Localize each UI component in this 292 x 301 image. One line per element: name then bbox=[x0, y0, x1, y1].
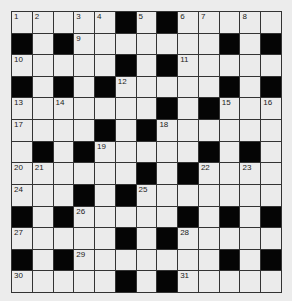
crossword-cell[interactable] bbox=[240, 207, 260, 228]
crossword-cell[interactable] bbox=[220, 163, 240, 184]
crossword-cell[interactable] bbox=[178, 120, 198, 141]
crossword-cell[interactable] bbox=[137, 250, 157, 271]
crossword-cell[interactable] bbox=[137, 271, 157, 292]
crossword-cell[interactable] bbox=[199, 77, 219, 98]
crossword-cell[interactable]: 2 bbox=[33, 12, 53, 33]
crossword-cell[interactable] bbox=[199, 250, 219, 271]
crossword-cell[interactable] bbox=[220, 185, 240, 206]
crossword-cell[interactable]: 5 bbox=[137, 12, 157, 33]
crossword-cell[interactable] bbox=[33, 207, 53, 228]
crossword-cell[interactable] bbox=[220, 120, 240, 141]
crossword-cell[interactable]: 14 bbox=[54, 98, 74, 119]
crossword-cell[interactable] bbox=[54, 55, 74, 76]
crossword-cell[interactable]: 11 bbox=[178, 55, 198, 76]
crossword-cell[interactable]: 20 bbox=[12, 163, 32, 184]
crossword-cell[interactable] bbox=[261, 55, 281, 76]
crossword-cell[interactable] bbox=[157, 77, 177, 98]
crossword-cell[interactable]: 24 bbox=[12, 185, 32, 206]
crossword-cell[interactable] bbox=[137, 98, 157, 119]
crossword-cell[interactable]: 13 bbox=[12, 98, 32, 119]
crossword-cell[interactable]: 26 bbox=[74, 207, 94, 228]
crossword-cell[interactable]: 18 bbox=[157, 120, 177, 141]
crossword-cell[interactable] bbox=[116, 163, 136, 184]
crossword-cell[interactable] bbox=[116, 98, 136, 119]
crossword-cell[interactable] bbox=[240, 120, 260, 141]
crossword-cell[interactable] bbox=[74, 120, 94, 141]
crossword-cell[interactable] bbox=[95, 34, 115, 55]
crossword-cell[interactable] bbox=[199, 185, 219, 206]
crossword-cell[interactable] bbox=[95, 250, 115, 271]
crossword-cell[interactable] bbox=[199, 120, 219, 141]
crossword-cell[interactable] bbox=[240, 55, 260, 76]
crossword-cell[interactable] bbox=[240, 250, 260, 271]
crossword-cell[interactable] bbox=[116, 34, 136, 55]
crossword-cell[interactable]: 12 bbox=[116, 77, 136, 98]
crossword-cell[interactable]: 31 bbox=[178, 271, 198, 292]
crossword-cell[interactable]: 9 bbox=[74, 34, 94, 55]
crossword-cell[interactable]: 10 bbox=[12, 55, 32, 76]
crossword-cell[interactable] bbox=[157, 250, 177, 271]
crossword-cell[interactable]: 25 bbox=[137, 185, 157, 206]
crossword-cell[interactable] bbox=[178, 34, 198, 55]
crossword-cell[interactable]: 28 bbox=[178, 228, 198, 249]
crossword-cell[interactable]: 16 bbox=[261, 98, 281, 119]
crossword-cell[interactable] bbox=[95, 55, 115, 76]
crossword-cell[interactable] bbox=[178, 77, 198, 98]
crossword-cell[interactable] bbox=[261, 185, 281, 206]
crossword-cell[interactable]: 3 bbox=[74, 12, 94, 33]
crossword-cell[interactable]: 7 bbox=[199, 12, 219, 33]
crossword-cell[interactable] bbox=[199, 34, 219, 55]
crossword-cell[interactable] bbox=[178, 142, 198, 163]
crossword-cell[interactable] bbox=[33, 250, 53, 271]
crossword-cell[interactable] bbox=[95, 163, 115, 184]
crossword-cell[interactable] bbox=[157, 142, 177, 163]
crossword-cell[interactable] bbox=[199, 271, 219, 292]
crossword-cell[interactable]: 6 bbox=[178, 12, 198, 33]
crossword-cell[interactable] bbox=[220, 228, 240, 249]
crossword-cell[interactable] bbox=[157, 207, 177, 228]
crossword-cell[interactable] bbox=[54, 163, 74, 184]
crossword-cell[interactable] bbox=[33, 77, 53, 98]
crossword-cell[interactable] bbox=[33, 271, 53, 292]
crossword-cell[interactable] bbox=[54, 12, 74, 33]
crossword-cell[interactable] bbox=[178, 98, 198, 119]
crossword-cell[interactable] bbox=[157, 185, 177, 206]
crossword-cell[interactable] bbox=[33, 228, 53, 249]
crossword-cell[interactable] bbox=[95, 185, 115, 206]
crossword-cell[interactable]: 30 bbox=[12, 271, 32, 292]
crossword-cell[interactable] bbox=[137, 142, 157, 163]
crossword-cell[interactable]: 23 bbox=[240, 163, 260, 184]
crossword-cell[interactable]: 22 bbox=[199, 163, 219, 184]
crossword-cell[interactable] bbox=[199, 207, 219, 228]
crossword-cell[interactable] bbox=[74, 271, 94, 292]
crossword-cell[interactable] bbox=[261, 271, 281, 292]
crossword-cell[interactable] bbox=[74, 98, 94, 119]
crossword-cell[interactable] bbox=[137, 207, 157, 228]
crossword-cell[interactable] bbox=[95, 98, 115, 119]
crossword-cell[interactable] bbox=[54, 120, 74, 141]
crossword-cell[interactable] bbox=[220, 55, 240, 76]
crossword-cell[interactable] bbox=[54, 185, 74, 206]
crossword-cell[interactable] bbox=[240, 228, 260, 249]
crossword-cell[interactable] bbox=[261, 163, 281, 184]
crossword-cell[interactable] bbox=[116, 250, 136, 271]
crossword-cell[interactable] bbox=[178, 185, 198, 206]
crossword-cell[interactable] bbox=[137, 77, 157, 98]
crossword-cell[interactable] bbox=[33, 98, 53, 119]
crossword-cell[interactable] bbox=[137, 34, 157, 55]
crossword-cell[interactable]: 8 bbox=[240, 12, 260, 33]
crossword-cell[interactable] bbox=[261, 228, 281, 249]
crossword-cell[interactable] bbox=[33, 34, 53, 55]
crossword-cell[interactable] bbox=[220, 271, 240, 292]
crossword-cell[interactable]: 21 bbox=[33, 163, 53, 184]
crossword-cell[interactable] bbox=[240, 34, 260, 55]
crossword-cell[interactable] bbox=[33, 185, 53, 206]
crossword-cell[interactable]: 15 bbox=[220, 98, 240, 119]
crossword-cell[interactable] bbox=[12, 142, 32, 163]
crossword-cell[interactable] bbox=[74, 163, 94, 184]
crossword-cell[interactable] bbox=[178, 250, 198, 271]
crossword-cell[interactable] bbox=[74, 55, 94, 76]
crossword-cell[interactable] bbox=[54, 142, 74, 163]
crossword-cell[interactable]: 29 bbox=[74, 250, 94, 271]
crossword-cell[interactable] bbox=[220, 12, 240, 33]
